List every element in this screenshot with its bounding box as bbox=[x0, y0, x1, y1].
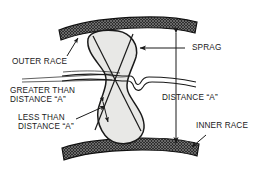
label-outer-race: OUTER RACE bbox=[12, 57, 67, 67]
label-less-than-line2: DISTANCE “A” bbox=[18, 122, 74, 131]
label-distance-a: DISTANCE “A” bbox=[162, 93, 218, 103]
label-greater-than-line1: GREATER THAN bbox=[10, 86, 75, 95]
outer-race-leader bbox=[67, 38, 78, 56]
sprag-element bbox=[88, 30, 144, 143]
label-greater-than-line2: DISTANCE “A” bbox=[10, 95, 66, 104]
sprag-clutch-diagram: OUTER RACE GREATER THAN DISTANCE “A” LES… bbox=[0, 0, 264, 174]
label-inner-race: INNER RACE bbox=[196, 121, 248, 131]
label-sprag: SPRAG bbox=[192, 43, 221, 53]
label-less-than-line1: LESS THAN bbox=[18, 113, 65, 122]
